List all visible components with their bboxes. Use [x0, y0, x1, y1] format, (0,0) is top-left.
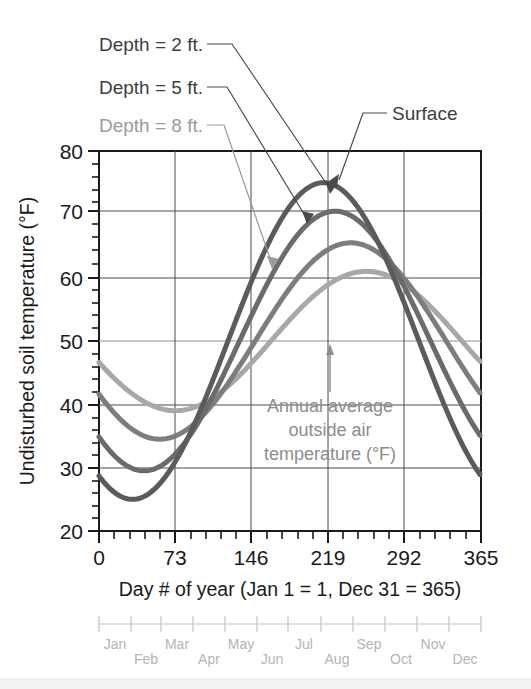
- y-tick-80: 80: [60, 140, 83, 163]
- month-label-dec: Dec: [453, 651, 478, 667]
- month-label-sep: Sep: [357, 636, 382, 652]
- footer-band: [0, 678, 531, 689]
- x-axis-title: Day # of year (Jan 1 = 1, Dec 31 = 365): [119, 578, 462, 600]
- month-label-may: May: [228, 636, 254, 652]
- month-label-jul: Jul: [295, 636, 313, 652]
- x-tick-292: 292: [386, 546, 421, 569]
- soil-temperature-figure: 80 70 60 50 40 30 20 Undisturbed soil te…: [0, 0, 531, 689]
- x-tick-146: 146: [233, 546, 268, 569]
- month-label-aug: Aug: [325, 651, 350, 667]
- callout-surface: Surface: [392, 103, 457, 124]
- x-tick-0: 0: [93, 546, 105, 569]
- y-tick-60: 60: [60, 267, 83, 290]
- x-tick-219: 219: [310, 546, 345, 569]
- y-axis-title: Undisturbed soil temperature (°F): [16, 197, 38, 486]
- callout-depth-5ft: Depth = 5 ft.: [99, 77, 203, 98]
- month-label-jan: Jan: [104, 636, 127, 652]
- month-label-feb: Feb: [134, 651, 158, 667]
- y-tick-70: 70: [60, 200, 83, 223]
- annual-average-line-3: temperature (°F): [264, 444, 396, 464]
- chart-svg: 80 70 60 50 40 30 20 Undisturbed soil te…: [0, 0, 531, 689]
- month-label-jun: Jun: [261, 651, 284, 667]
- month-label-apr: Apr: [198, 651, 220, 667]
- annual-average-line-1: Annual average: [267, 396, 393, 416]
- y-tick-50: 50: [60, 330, 83, 353]
- annual-average-line-2: outside air: [288, 420, 371, 440]
- month-label-mar: Mar: [165, 636, 189, 652]
- x-tick-73: 73: [163, 546, 186, 569]
- y-tick-20: 20: [60, 520, 83, 543]
- month-label-nov: Nov: [421, 636, 446, 652]
- month-label-oct: Oct: [390, 651, 412, 667]
- callout-depth-8ft: Depth = 8 ft.: [99, 115, 203, 136]
- x-tick-365: 365: [463, 546, 498, 569]
- callout-depth-2ft: Depth = 2 ft.: [99, 34, 203, 55]
- y-tick-40: 40: [60, 394, 83, 417]
- y-tick-30: 30: [60, 457, 83, 480]
